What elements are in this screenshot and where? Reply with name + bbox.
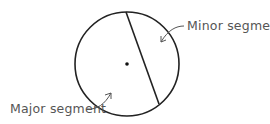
minor-segment-label: Minor segment <box>187 18 270 33</box>
chord <box>126 12 159 104</box>
center-dot <box>125 62 129 66</box>
major-segment-label: Major segment <box>10 101 106 116</box>
